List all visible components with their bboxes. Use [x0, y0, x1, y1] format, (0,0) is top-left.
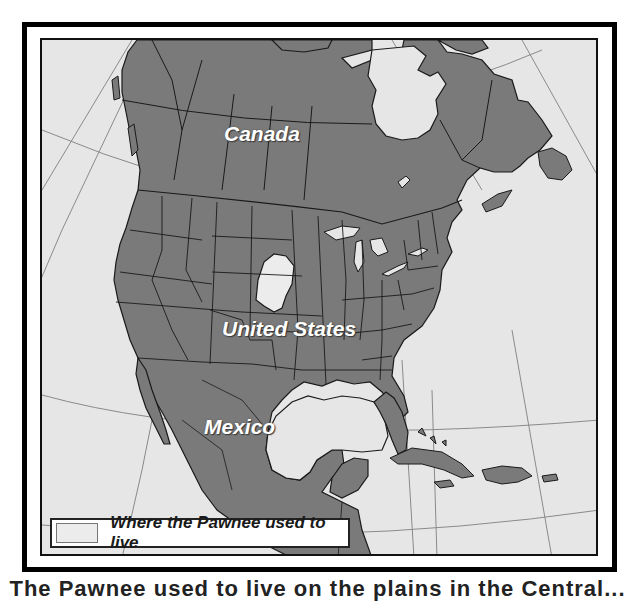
map-area: Canada United States Mexico Where the Pa… — [40, 38, 598, 556]
map-caption: The Pawnee used to live on the plains in… — [0, 576, 635, 602]
map-legend: Where the Pawnee used to live — [50, 518, 350, 548]
legend-swatch-pawnee — [56, 523, 98, 543]
north-america-map — [42, 40, 598, 556]
legend-text: Where the Pawnee used to live — [110, 513, 348, 553]
label-united-states: United States — [222, 317, 356, 341]
label-mexico: Mexico — [204, 415, 275, 439]
label-canada: Canada — [224, 122, 300, 146]
island-puerto-rico — [542, 474, 558, 482]
